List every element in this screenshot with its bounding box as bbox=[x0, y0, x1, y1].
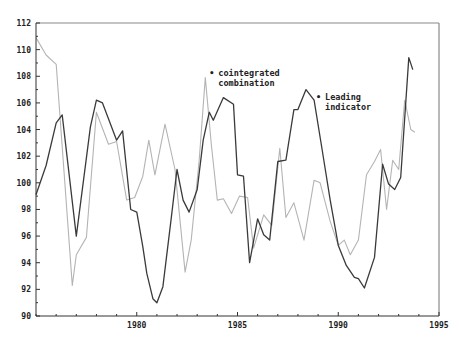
y-tick-label: 98 bbox=[21, 205, 31, 214]
y-tick-label: 112 bbox=[17, 19, 32, 28]
annotation-leading: •Leadingindicator bbox=[316, 92, 371, 112]
y-tick-label: 102 bbox=[17, 152, 32, 161]
axes: 9092949698100102104106108110112198019851… bbox=[17, 19, 449, 330]
y-tick-label: 106 bbox=[17, 99, 32, 108]
annotation-text: cointegrated bbox=[218, 68, 279, 78]
x-tick-label: 1990 bbox=[329, 321, 348, 330]
y-tick-label: 92 bbox=[21, 285, 31, 294]
y-tick-label: 90 bbox=[21, 312, 31, 321]
annotation-text: combination bbox=[218, 78, 274, 88]
y-tick-label: 104 bbox=[17, 126, 32, 135]
x-tick-label: 1985 bbox=[228, 321, 247, 330]
y-tick-label: 94 bbox=[21, 259, 31, 268]
annotation-text: indicator bbox=[325, 102, 371, 112]
y-tick-label: 110 bbox=[17, 46, 32, 55]
annotation-marker: • bbox=[209, 68, 214, 78]
y-tick-label: 108 bbox=[17, 72, 32, 81]
y-tick-label: 100 bbox=[17, 179, 32, 188]
y-tick-label: 96 bbox=[21, 232, 31, 241]
annotation-marker: • bbox=[316, 92, 321, 102]
x-tick-label: 1995 bbox=[429, 321, 448, 330]
line-chart: 9092949698100102104106108110112198019851… bbox=[0, 0, 459, 343]
annotation-text: Leading bbox=[325, 92, 361, 102]
x-tick-label: 1980 bbox=[127, 321, 146, 330]
annotation-cointegrated: •cointegratedcombination bbox=[209, 68, 279, 88]
